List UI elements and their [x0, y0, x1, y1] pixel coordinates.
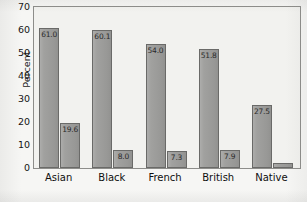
bar: 60.1 [92, 30, 112, 168]
bar-value-label: 51.8 [200, 52, 218, 60]
bar: 51.8 [199, 49, 219, 168]
bar-value-label: 8.0 [114, 153, 132, 161]
bar-value-label: 19.6 [61, 126, 79, 134]
x-axis-category-label: Native [237, 172, 306, 183]
y-axis-tick-label: 20 [12, 117, 30, 127]
bar-value-label: 54.0 [147, 47, 165, 55]
bar-value-label: 7.9 [221, 153, 239, 161]
bar-chart: Percent 010203040506070 61.019.660.18.05… [0, 0, 307, 202]
y-axis-tick-label: 50 [12, 48, 30, 58]
bar: 27.5 [252, 105, 272, 168]
plot-area: 61.019.660.18.054.07.351.87.927.5 [34, 7, 300, 168]
bar-value-label: 61.0 [40, 31, 58, 39]
bar-value-label: 60.1 [93, 33, 111, 41]
y-axis-tick-labels: 010203040506070 [8, 6, 30, 169]
bar: 54.0 [146, 44, 166, 168]
y-axis-tick-label: 70 [12, 2, 30, 12]
bar: 8.0 [113, 150, 133, 168]
bar: 7.9 [220, 150, 240, 168]
bar [273, 163, 293, 168]
bar-value-label: 7.3 [168, 154, 186, 162]
bar-value-label: 27.5 [253, 108, 271, 116]
y-axis-tick-label: 10 [12, 140, 30, 150]
y-axis-tick-label: 60 [12, 25, 30, 35]
plot-frame: 61.019.660.18.054.07.351.87.927.5 [33, 6, 301, 169]
bar: 19.6 [60, 123, 80, 168]
bar: 7.3 [167, 151, 187, 168]
x-axis-category-labels: AsianBlackFrenchBritishNative [33, 172, 301, 188]
y-axis-tick-label: 30 [12, 94, 30, 104]
y-axis-tick-label: 40 [12, 71, 30, 81]
bar: 61.0 [39, 28, 59, 168]
